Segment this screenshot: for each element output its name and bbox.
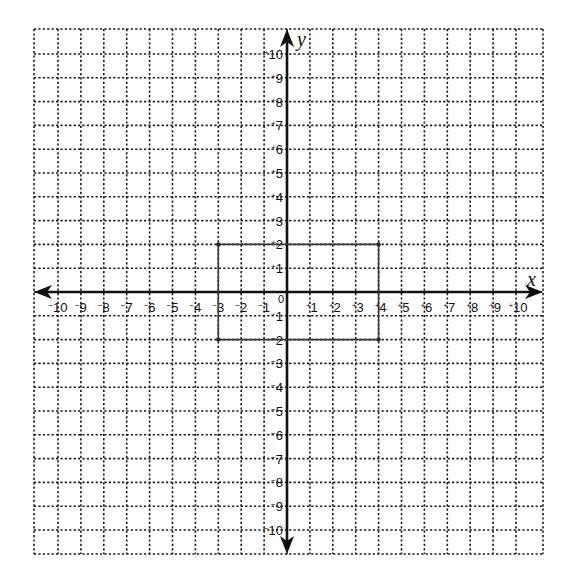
y-tick-label: +3 <box>271 214 283 229</box>
x-tick-label: +1 <box>306 300 318 315</box>
x-tick-label: −7 <box>121 300 133 315</box>
x-tick-label: −1 <box>258 300 270 315</box>
x-tick-label: +7 <box>443 300 455 315</box>
vertex-point <box>376 337 380 341</box>
y-tick-label: +1 <box>271 261 283 276</box>
x-axis-name: x <box>526 268 536 290</box>
x-tick-label: +2 <box>329 300 341 315</box>
vertex-point <box>216 337 220 341</box>
y-tick-label: −9 <box>271 499 283 514</box>
y-tick-label: −3 <box>271 356 283 371</box>
y-tick-label: −1 <box>271 309 283 324</box>
y-tick-label: −10 <box>264 523 283 538</box>
y-tick-label: +6 <box>271 142 283 157</box>
x-tick-label: +9 <box>489 300 501 315</box>
y-tick-label: −8 <box>271 475 283 490</box>
x-tick-label: −8 <box>98 300 110 315</box>
x-tick-label: −5 <box>167 300 179 315</box>
y-tick-label: −5 <box>271 404 283 419</box>
y-tick-label: −4 <box>271 380 283 395</box>
y-tick-label: +10 <box>264 47 283 62</box>
x-tick-label: +3 <box>352 300 364 315</box>
y-tick-label: +4 <box>271 190 283 205</box>
y-tick-label: −6 <box>271 428 283 443</box>
origin-label: 0 <box>278 293 284 305</box>
x-tick-label: −6 <box>144 300 156 315</box>
vertex-point <box>216 242 220 246</box>
x-tick-label: −10 <box>48 300 67 315</box>
x-tick-label: −4 <box>189 300 201 315</box>
vertex-point <box>376 242 380 246</box>
x-tick-label: −2 <box>235 300 247 315</box>
x-tick-label: +10 <box>508 300 527 315</box>
coordinate-plane: −10−9−8−7−6−5−4−3−2−1+1+2+3+4+5+6+7+8+9+… <box>0 0 564 577</box>
x-tick-label: −9 <box>75 300 87 315</box>
x-tick-label: +6 <box>420 300 432 315</box>
x-tick-label: +5 <box>398 300 410 315</box>
y-tick-label: +9 <box>271 71 283 86</box>
x-tick-label: +4 <box>375 300 387 315</box>
y-tick-label: −7 <box>271 452 283 467</box>
x-tick-label: +8 <box>466 300 478 315</box>
axes <box>34 29 543 554</box>
y-tick-label: +8 <box>271 95 283 110</box>
y-axis-name: y <box>295 28 306 51</box>
y-tick-label: +5 <box>271 166 283 181</box>
y-tick-label: +7 <box>271 118 283 133</box>
